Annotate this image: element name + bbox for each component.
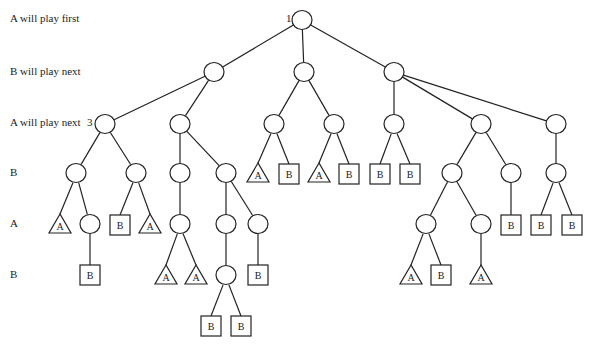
node-label: A [146, 221, 154, 232]
terminal-node-b-square: B [400, 164, 420, 184]
decision-node-circle [126, 164, 146, 183]
tree-edge [229, 285, 241, 316]
terminal-node-a-triangle: A [139, 214, 161, 233]
decision-node-circle [384, 63, 404, 82]
node-label: A [477, 272, 485, 283]
node-label: B [238, 321, 245, 332]
terminal-node-b-square: B [531, 215, 551, 235]
game-tree-diagram: ABABBBABABBBBAABABABB [0, 0, 590, 348]
tree-edge [114, 76, 205, 119]
decision-node-circle [264, 115, 284, 134]
node-label: B [569, 220, 576, 231]
decision-node-circle [80, 215, 100, 234]
tree-edge [486, 133, 506, 165]
tree-edge [120, 183, 133, 215]
terminal-node-b-square: B [248, 265, 268, 285]
tree-edge [185, 80, 208, 115]
terminal-node-b-square: B [201, 316, 221, 336]
node-label: B [538, 220, 545, 231]
node-label: A [407, 272, 415, 283]
tree-edge [60, 183, 73, 214]
tree-edge [258, 134, 271, 163]
tree-edge [431, 182, 448, 215]
node-label: B [438, 270, 445, 281]
decision-node-circle [216, 164, 236, 183]
tree-edge [187, 131, 219, 165]
tree-edge [231, 181, 252, 215]
terminal-node-a-triangle: A [470, 265, 492, 284]
decision-node-circle [442, 164, 462, 183]
terminal-node-a-triangle: A [49, 214, 71, 233]
tree-edge [411, 234, 423, 265]
decision-node-circle [95, 115, 115, 134]
terminal-node-a-triangle: A [155, 265, 177, 284]
terminal-node-b-square: B [562, 215, 582, 235]
terminal-node-b-square: B [279, 164, 299, 184]
decision-node-circle [66, 164, 86, 183]
node-label: B [286, 169, 293, 180]
tree-edge [380, 134, 391, 164]
decision-node-circle [170, 115, 190, 134]
terminal-node-b-square: B [339, 164, 359, 184]
decision-node-circle [471, 215, 491, 234]
tree-edge [81, 133, 100, 165]
tree-edge [311, 25, 386, 67]
tree-edge [110, 132, 130, 164]
decision-node-circle [216, 215, 236, 234]
tree-edge [397, 134, 410, 164]
node-label: B [508, 220, 515, 231]
decision-node-circle [170, 164, 190, 183]
node-label: B [208, 321, 215, 332]
terminal-node-a-triangle: A [308, 163, 330, 182]
tree-edge [404, 75, 547, 121]
tree-edge [403, 77, 473, 119]
node-label: A [162, 272, 170, 283]
tree-edge [223, 25, 294, 67]
tree-edge [429, 234, 441, 265]
decision-node-circle [471, 115, 491, 134]
tree-edge [541, 183, 553, 215]
tree-edge [211, 285, 223, 316]
decision-node-circle [384, 115, 404, 134]
terminal-node-b-square: B [501, 215, 521, 235]
terminal-node-a-triangle: A [247, 163, 269, 182]
node-label: B [377, 169, 384, 180]
tree-edge [457, 133, 476, 165]
tree-edge [79, 183, 88, 215]
node-label: B [87, 270, 94, 281]
terminal-node-b-square: B [110, 215, 130, 235]
terminal-node-b-square: B [431, 265, 451, 285]
decision-node-circle [546, 164, 566, 183]
decision-node-circle [416, 215, 436, 234]
node-label: A [254, 170, 262, 181]
decision-node-circle [170, 215, 190, 234]
node-label: A [315, 170, 323, 181]
terminal-node-b-square: B [370, 164, 390, 184]
decision-node-circle [501, 164, 521, 183]
decision-node-circle [204, 63, 224, 82]
node-label: A [192, 272, 200, 283]
terminal-node-b-square: B [231, 316, 251, 336]
terminal-node-a-triangle: A [400, 265, 422, 284]
tree-edge [302, 30, 303, 62]
node-label: B [255, 270, 262, 281]
decision-node-circle [248, 215, 268, 234]
node-label: A [56, 221, 64, 232]
decision-node-circle [546, 115, 566, 134]
tree-edge [139, 183, 150, 214]
node-label: B [407, 169, 414, 180]
tree-nodes: ABABBBABABBBBAABABABB [49, 11, 582, 337]
tree-edge [337, 134, 349, 164]
decision-node-circle [294, 63, 314, 82]
tree-edge [309, 81, 329, 116]
node-label: B [346, 169, 353, 180]
decision-node-circle [324, 115, 344, 134]
tree-edge [457, 182, 476, 216]
tree-edge [279, 81, 299, 116]
terminal-node-b-square: B [80, 265, 100, 285]
tree-edge [166, 234, 177, 265]
decision-node-circle [292, 11, 312, 30]
tree-edge [559, 183, 572, 215]
tree-edge [183, 234, 196, 265]
tree-edge [277, 134, 289, 164]
